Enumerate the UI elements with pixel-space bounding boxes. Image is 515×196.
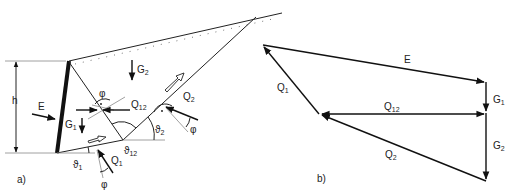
q2-vector-label: Q2 (385, 149, 397, 161)
q1-vector-label: Q1 (277, 82, 289, 94)
panel-a-label: a) (17, 174, 26, 185)
soil-dots (75, 18, 277, 64)
ground-surface (69, 13, 282, 61)
earth-pressure-diagram: h E G1 G2 φ (0, 0, 515, 196)
panel-b-force-polygon: E G1 Q12 G2 Q2 Q1 b) (263, 45, 505, 184)
panel-b-label: b) (317, 173, 326, 184)
q2-vector (322, 115, 486, 181)
g2-label: G2 (137, 64, 149, 76)
theta1-arc (88, 147, 89, 153)
phi-label-q12: φ (99, 88, 106, 99)
retaining-wall (57, 61, 69, 153)
q2-label: Q2 (183, 91, 195, 103)
q12-label: Q12 (131, 99, 147, 111)
panel-a-wall-wedge: h E G1 G2 φ (5, 13, 282, 190)
theta2-arc (148, 117, 154, 140)
theta1-label: ϑ1 (73, 159, 82, 171)
e-vector-label: E (404, 54, 411, 65)
earth-pressure-arrow (32, 114, 55, 119)
q1-vector (264, 47, 319, 114)
g2-vector-label: G2 (493, 140, 505, 152)
movement-arrow-wedge-1 (88, 136, 106, 143)
internal-slip-plane-12 (69, 62, 123, 140)
phi-label-q2: φ (190, 124, 197, 135)
e-label: E (38, 101, 45, 112)
theta2-label: ϑ2 (155, 124, 164, 136)
height-label: h (12, 95, 18, 106)
theta12-label: ϑ12 (124, 145, 137, 157)
e-vector (263, 45, 484, 82)
g1-vector-label: G1 (493, 94, 505, 106)
movement-arrow-wedge-2 (165, 73, 184, 92)
right-angle-dot-q2 (161, 110, 163, 112)
right-angle-dot (100, 103, 102, 105)
g1-label: G1 (65, 119, 77, 131)
q12-vector-label: Q12 (384, 101, 400, 113)
theta12-arc (112, 122, 136, 128)
q1-label: Q1 (111, 155, 123, 167)
phi-label-q1: φ (101, 179, 108, 190)
